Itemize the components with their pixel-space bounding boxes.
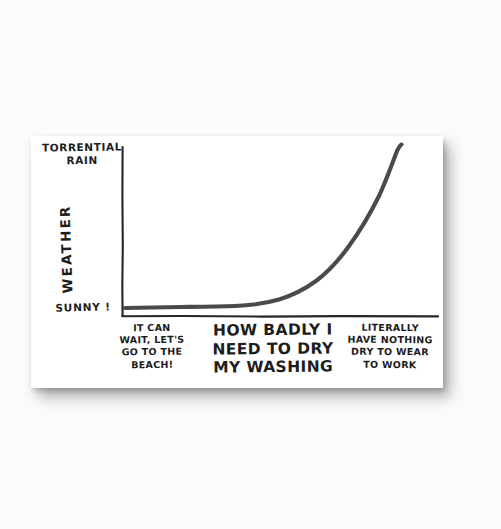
x-right-line1: LITERALLY [344,322,436,335]
x-left-line2: WAIT, LET'S [109,334,195,347]
x-axis-label-left: IT CAN WAIT, LET'S GO TO THE BEACH! [109,322,196,372]
y-axis-line [122,147,123,316]
chart-plot-area: TORRENTIAL RAIN WEATHER SUNNY ! IT CAN W… [31,136,443,388]
x-left-line1: IT CAN [109,322,195,335]
x-left-line4: BEACH! [109,358,195,371]
x-mid-line2: NEED TO DRY [199,339,347,359]
x-right-line2: HAVE NOTHING [344,334,436,347]
x-axis-line [122,316,438,317]
x-right-line4: TO WORK [344,358,436,371]
x-left-line3: GO TO THE [109,346,195,359]
x-axis-label-middle: HOW BADLY I NEED TO DRY MY WASHING [199,320,347,377]
x-right-line3: DRY TO WEAR [344,346,436,359]
data-curve [125,145,402,308]
x-axis-labels: IT CAN WAIT, LET'S GO TO THE BEACH! HOW … [31,320,443,386]
x-mid-line3: MY WASHING [199,357,347,377]
chart-card: TORRENTIAL RAIN WEATHER SUNNY ! IT CAN W… [31,136,443,388]
x-mid-line1: HOW BADLY I [199,320,347,340]
x-axis-label-right: LITERALLY HAVE NOTHING DRY TO WEAR TO WO… [344,322,436,371]
